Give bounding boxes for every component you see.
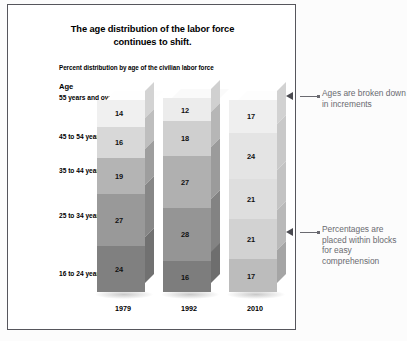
bar-segment: 16: [97, 127, 145, 158]
bar-segment: 27: [163, 156, 211, 208]
segment-value-label: 14: [97, 109, 141, 118]
bar-side-face: [145, 228, 154, 283]
annotation-percentages-in-blocks: Percentages are placed within blocks for…: [322, 224, 407, 266]
bar-segment: 21: [229, 179, 277, 219]
chart-title-line-1: The age distribution of the labor force: [20, 23, 285, 36]
bar-segment: 24: [97, 246, 145, 292]
segment-value-label: 12: [163, 105, 207, 114]
segment-value-label: 16: [163, 272, 207, 281]
bar-segment: 28: [163, 208, 211, 262]
chart-title-line-2: continues to shift.: [20, 36, 285, 49]
year-label-1979: 1979: [93, 304, 153, 313]
segment-value-label: 27: [163, 177, 207, 186]
annotation-1-arrowhead-icon: [286, 92, 293, 100]
annotation-ages-broken-down: Ages are broken down in increments: [322, 88, 406, 109]
year-label-2010: 2010: [225, 304, 285, 313]
bar-segment: 18: [163, 121, 211, 156]
screenshot-root: The age distribution of the labor force …: [0, 0, 407, 341]
bar-side-face: [211, 243, 220, 283]
segment-value-label: 28: [163, 230, 207, 239]
annotation-1-dot: [317, 95, 320, 98]
segment-value-label: 24: [97, 264, 141, 273]
bar-side-face: [277, 241, 286, 283]
segment-value-label: 24: [229, 151, 273, 160]
bar-segment: 19: [97, 158, 145, 194]
year-label-1992: 1992: [159, 304, 219, 313]
annotation-2-arrowhead-icon: [286, 228, 293, 236]
segment-value-label: 16: [97, 138, 141, 147]
segment-value-label: 18: [163, 134, 207, 143]
bar-segment: 16: [163, 261, 211, 292]
bar-segment: 21: [229, 219, 277, 259]
segment-value-label: 21: [229, 194, 273, 203]
segment-value-label: 21: [229, 235, 273, 244]
chart-panel: The age distribution of the labor force …: [7, 4, 296, 330]
bar-segment: 12: [163, 98, 211, 121]
bar-segment: 17: [229, 259, 277, 292]
annotation-2-dot: [317, 231, 320, 234]
chart-title: The age distribution of the labor force …: [20, 23, 285, 48]
segment-value-label: 19: [97, 171, 141, 180]
bar-segment: 17: [229, 100, 277, 133]
bar-top-face: [172, 89, 229, 98]
bar-segment: 14: [97, 100, 145, 127]
bar-segment: 24: [229, 133, 277, 179]
bar-segment: 27: [97, 194, 145, 246]
age-axis-header: Age: [59, 82, 73, 91]
segment-value-label: 17: [229, 112, 273, 121]
segment-value-label: 27: [97, 215, 141, 224]
segment-value-label: 17: [229, 271, 273, 280]
bar-top-face: [106, 91, 163, 100]
chart-subtitle: Percent distribution by age of the civil…: [59, 64, 289, 71]
